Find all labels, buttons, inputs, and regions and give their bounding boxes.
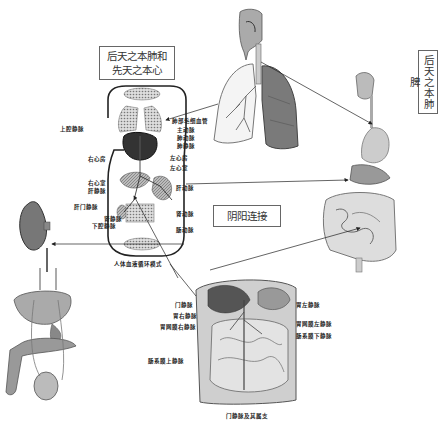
label-aorta: 主动脉: [177, 127, 195, 134]
label-hepatic-artery: 肝动脉: [176, 185, 194, 192]
label-right-ventricle: 右心室: [88, 180, 106, 187]
label-right-gastroepiploic-vein: 胃网膜右静脉: [160, 324, 196, 331]
respiratory-system-illustration: [214, 9, 298, 149]
reproductive-organs-illustration: [6, 268, 76, 400]
label-left-gastric-vein: 胃左静脉: [296, 302, 320, 309]
label-hepatic-vein: 肝静脉: [88, 188, 106, 195]
circulation-caption: 人体血液循环模式: [114, 260, 162, 268]
label-portal-vein: 门静脉: [175, 302, 193, 309]
abdominal-cavity-illustration: [196, 280, 296, 404]
label-renal-artery: 肾动脉: [176, 211, 194, 218]
label-left-ventricle: 左心室: [170, 165, 188, 172]
label-right-atrium: 右心房: [88, 156, 106, 163]
label-left-gastroepiploic-vein: 胃网膜左静脉: [296, 321, 332, 328]
label-superior-vena-cava: 上腔静脉: [60, 126, 84, 133]
yin-yang-box: 阴阳连接: [213, 205, 281, 227]
label-pulmonary-artery: 肺动脉: [177, 135, 195, 142]
label-renal-vein: 肾静脉: [104, 216, 122, 223]
label-inferior-vena-cava: 下腔静脉: [92, 223, 116, 230]
kidney-illustration: [20, 202, 50, 272]
label-pulmonary-capillaries: 肺部毛细血管: [172, 118, 208, 125]
label-pulmonary-vein: 肺静脉: [177, 143, 195, 150]
label-hepatic-portal-vein: 肝门静脉: [74, 204, 98, 211]
label-left-atrium: 左心房: [170, 155, 188, 162]
portal-caption: 门静脉及其属支: [226, 412, 268, 420]
label-superior-mesenteric-vein: 肠系膜上静脉: [148, 358, 184, 365]
lung-spleen-box: 后天之本肺脾: [418, 50, 438, 114]
label-intestinal-artery: 肠动脉: [176, 227, 194, 234]
anatomy-diagram: 后天之本肺和 先天之本心 后天之本肺脾 阴阳连接 上腔静脉 右心房 右心室 肝静…: [0, 0, 448, 429]
lung-heart-line2: 先天之本心: [104, 63, 170, 77]
lung-heart-line1: 后天之本肺和: [104, 49, 170, 63]
connector-lines: [52, 62, 372, 296]
digestive-system-illustration: [323, 73, 396, 272]
label-right-gastric-vein: 胃右静脉: [173, 313, 197, 320]
lung-heart-box: 后天之本肺和 先天之本心: [99, 46, 175, 80]
label-inferior-mesenteric-vein: 肠系膜下静脉: [296, 333, 332, 340]
